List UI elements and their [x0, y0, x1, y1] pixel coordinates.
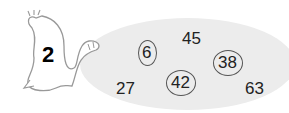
number-38: 38 — [218, 54, 237, 71]
number-27: 27 — [116, 80, 135, 97]
number-63: 63 — [245, 80, 264, 97]
number-6: 6 — [142, 44, 151, 61]
number-42: 42 — [171, 74, 190, 91]
number-45: 45 — [182, 30, 201, 47]
exercise-number: 2 — [42, 42, 54, 68]
seal-icon — [0, 0, 110, 113]
